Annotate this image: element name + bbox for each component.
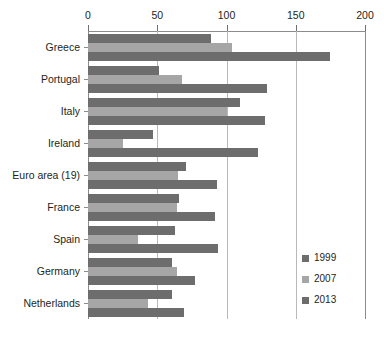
bar	[88, 107, 227, 116]
category-label: Ireland	[0, 137, 80, 149]
bar	[88, 75, 182, 84]
gridline-150	[296, 31, 297, 319]
legend-swatch-icon	[302, 255, 309, 262]
legend-item[interactable]: 2007	[302, 273, 336, 285]
category-label: Greece	[0, 41, 80, 53]
bar	[88, 98, 240, 107]
bar	[88, 171, 178, 180]
x-tick-label: 100	[218, 9, 236, 21]
legend-swatch-icon	[302, 276, 309, 283]
bar	[88, 244, 218, 253]
bar	[88, 162, 186, 171]
bar	[88, 235, 138, 244]
bar	[88, 84, 267, 93]
category-label: France	[0, 201, 80, 213]
bar	[88, 299, 148, 308]
gridline-200	[365, 31, 366, 319]
category-label: Euro area (19)	[0, 169, 80, 181]
bar	[88, 148, 258, 157]
legend-label: 2013	[314, 294, 336, 306]
category-label: Italy	[0, 105, 80, 117]
bar	[88, 194, 179, 203]
bar	[88, 276, 195, 285]
x-tick-label: 0	[85, 9, 91, 21]
legend-label: 2007	[314, 273, 336, 285]
category-label: Netherlands	[0, 297, 80, 309]
bar-chart: 050100150200 GreecePortugalItalyIrelandE…	[0, 0, 384, 339]
bar	[88, 290, 172, 299]
legend-item[interactable]: 2013	[302, 294, 336, 306]
gridline-100	[227, 31, 228, 319]
bar	[88, 139, 123, 148]
bar	[88, 52, 330, 61]
category-label: Germany	[0, 265, 80, 277]
bar	[88, 267, 177, 276]
x-tick-label: 150	[287, 9, 305, 21]
bar	[88, 258, 172, 267]
bar	[88, 116, 265, 125]
bar	[88, 226, 175, 235]
category-label: Portugal	[0, 73, 80, 85]
bar	[88, 43, 232, 52]
bar	[88, 212, 215, 221]
bar	[88, 180, 217, 189]
bar	[88, 203, 177, 212]
bar	[88, 66, 159, 75]
legend-item[interactable]: 1999	[302, 252, 336, 264]
bar	[88, 130, 153, 139]
bar	[88, 308, 184, 317]
category-label: Spain	[0, 233, 80, 245]
x-tick-label: 200	[356, 9, 374, 21]
legend-swatch-icon	[302, 297, 309, 304]
legend-label: 1999	[314, 252, 336, 264]
bar	[88, 34, 211, 43]
x-tick-label: 50	[151, 9, 163, 21]
legend: 199920072013	[302, 252, 336, 315]
